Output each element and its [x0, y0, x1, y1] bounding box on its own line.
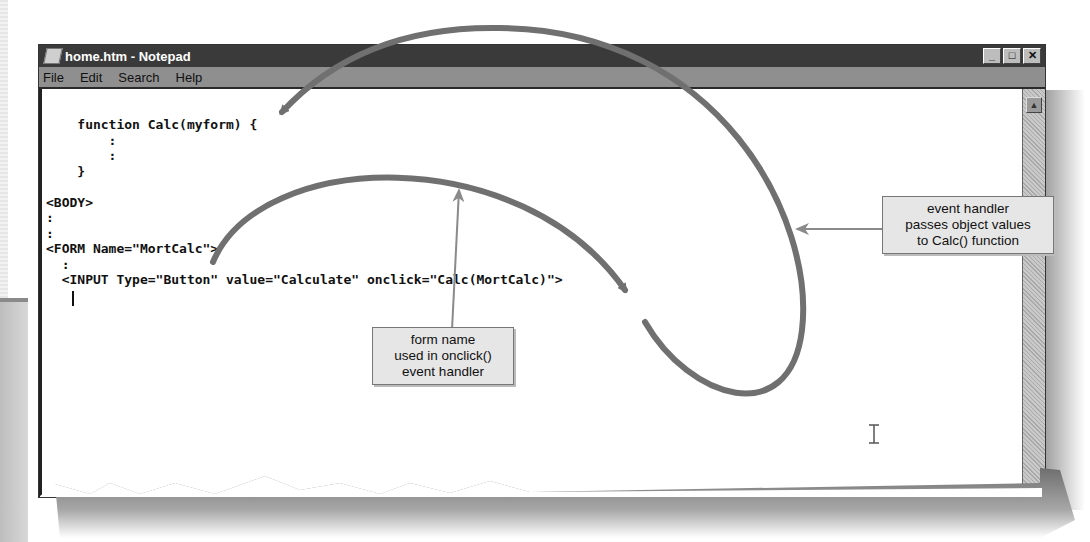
callout-line: to Calc() function: [889, 233, 1047, 249]
callout-line: event handler: [379, 364, 507, 380]
callout-form-name: form name used in onclick() event handle…: [372, 327, 514, 385]
callout-event-handler: event handler passes object values to Ca…: [882, 196, 1054, 254]
i-beam-cursor-icon: [868, 424, 880, 444]
callout-line: used in onclick(): [379, 348, 507, 364]
callout-line: passes object values: [889, 217, 1047, 233]
callout-line: form name: [379, 332, 507, 348]
arrow-formname-to-onclick: [213, 178, 625, 290]
callout-line: event handler: [889, 201, 1047, 217]
arrow-event-to-function: [282, 28, 803, 394]
callout-pointer-formname: [452, 190, 459, 330]
